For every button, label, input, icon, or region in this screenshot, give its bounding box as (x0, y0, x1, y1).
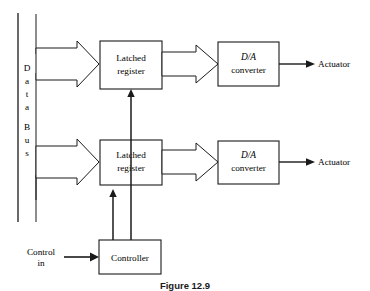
actuator-top-label: Actuator (318, 59, 350, 69)
actuator-top-arrowhead (306, 60, 315, 68)
control-in-arrowhead (90, 253, 99, 262)
controller-label: Controller (111, 253, 149, 263)
figure-caption: Figure 12.9 (160, 280, 210, 291)
dac-top-label-line2: converter (231, 65, 266, 75)
block-arrow-top-register-to-dac (162, 45, 218, 83)
latched-register-top-box[interactable] (100, 41, 162, 89)
bus-letter-5: u (25, 135, 30, 145)
dac-bottom-label-line1: D/A (240, 150, 256, 160)
bus-letter-1: a (25, 76, 29, 86)
block-arrow-bus-to-bottom-register (36, 139, 99, 185)
dac-top-box[interactable] (218, 42, 279, 86)
block-arrow-bottom-register-to-dac (162, 143, 218, 181)
dac-bottom-label-line2: converter (231, 163, 266, 173)
figure-container: Latched register D/A converter Actuator … (0, 0, 370, 291)
actuator-bottom-label: Actuator (318, 157, 350, 167)
control-in-label-line1: Control (27, 247, 56, 257)
block-diagram: Latched register D/A converter Actuator … (0, 0, 370, 291)
control-in-label-line2: in (37, 258, 45, 268)
bus-letter-3: a (25, 102, 29, 112)
controller-to-bottom-register-arrowhead (109, 189, 116, 197)
bus-letter-0: D (24, 63, 31, 73)
latched-register-top-label-line1: Latched (116, 53, 146, 63)
bus-letter-6: s (25, 148, 29, 158)
actuator-bottom-arrowhead (306, 158, 315, 166)
dac-top-label-line1: D/A (240, 52, 256, 62)
controller-to-top-register-arrowhead (127, 89, 134, 97)
block-arrow-bus-to-top-register (36, 41, 99, 87)
bus-letter-2: t (26, 89, 29, 99)
bus-letter-4: B (24, 122, 30, 132)
latched-register-top-label-line2: register (117, 66, 145, 76)
